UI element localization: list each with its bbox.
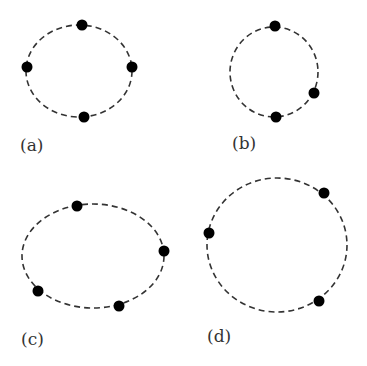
point-marker: [22, 62, 33, 73]
points-b: [270, 21, 320, 123]
panel-c: (c): [21, 201, 170, 350]
panel-b: (b): [230, 21, 320, 154]
point-marker: [72, 201, 83, 212]
dashed-circle-b: [230, 27, 318, 117]
panel-label-d: (d): [207, 326, 231, 346]
point-marker: [309, 88, 320, 99]
panel-label-c: (c): [21, 329, 44, 349]
point-marker: [270, 21, 281, 32]
points-d: [204, 188, 330, 307]
points-c: [33, 201, 170, 312]
point-marker: [114, 301, 125, 312]
point-marker: [204, 228, 215, 239]
point-marker: [79, 112, 90, 123]
point-marker: [159, 246, 170, 257]
point-marker: [33, 286, 44, 297]
panel-label-a: (a): [20, 135, 43, 155]
point-marker: [271, 112, 282, 123]
point-marker: [314, 296, 325, 307]
points-a: [22, 20, 138, 123]
panel-label-b: (b): [232, 133, 256, 153]
panel-a: (a): [20, 20, 138, 156]
diagram-canvas: (a) (b) (c) (d): [0, 0, 367, 366]
point-marker: [319, 188, 330, 199]
dashed-ellipse-a: [26, 25, 132, 117]
point-marker: [77, 20, 88, 31]
panel-d: (d): [204, 178, 348, 346]
point-marker: [127, 62, 138, 73]
